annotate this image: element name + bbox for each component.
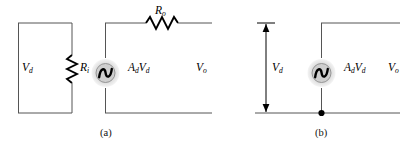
label-a-input-voltage-main: V xyxy=(22,61,29,73)
label-a-source-gain-sub: d xyxy=(135,66,139,75)
label-b-source-voltage-sub: d xyxy=(362,66,366,75)
label-a-input-voltage-sub: d xyxy=(29,66,33,75)
label-a-source-gain: A xyxy=(128,61,135,73)
output-resistor-symbol xyxy=(146,17,178,29)
label-b-input-voltage-sub: d xyxy=(279,66,283,75)
label-b-input-voltage: Vd xyxy=(272,62,283,74)
label-a-output-resistor: Ro xyxy=(155,5,166,17)
label-a-output-voltage-sub: o xyxy=(203,66,207,75)
label-a-output-resistor-main: R xyxy=(155,4,162,16)
label-b-source-gain: A xyxy=(344,61,351,73)
label-a-source-voltage: V xyxy=(139,61,146,73)
label-b-dependent-source: AdVd xyxy=(344,62,366,74)
voltage-arrowhead-up xyxy=(263,24,270,32)
label-a-output-resistor-sub: o xyxy=(162,9,166,18)
label-a-source-voltage-sub: d xyxy=(146,66,150,75)
junction-dot xyxy=(318,110,324,116)
circuit-figure: Vd Ri Ro AdVd Vo (a) Vd AdVd Vo (b) xyxy=(0,0,416,150)
label-b-output-voltage-main: V xyxy=(388,61,395,73)
voltage-arrowhead-down xyxy=(263,104,270,112)
caption-a: (a) xyxy=(100,127,112,138)
label-a-input-voltage: Vd xyxy=(22,62,33,74)
label-b-output-voltage-sub: o xyxy=(395,66,399,75)
label-a-output-voltage-main: V xyxy=(196,61,203,73)
caption-b: (b) xyxy=(315,127,327,138)
label-a-output-voltage: Vo xyxy=(196,62,207,74)
label-a-input-resistor: Ri xyxy=(80,62,89,74)
label-a-input-resistor-main: R xyxy=(80,61,87,73)
label-b-source-gain-sub: d xyxy=(351,66,355,75)
circuit-drawing-layer xyxy=(0,0,416,150)
input-resistor-symbol xyxy=(67,55,77,83)
label-b-output-voltage: Vo xyxy=(388,62,399,74)
label-b-input-voltage-main: V xyxy=(272,61,279,73)
circuit-a-output-loop xyxy=(92,17,213,113)
label-a-dependent-source: AdVd xyxy=(128,62,150,74)
label-a-input-resistor-sub: i xyxy=(87,66,89,75)
label-b-source-voltage: V xyxy=(355,61,362,73)
